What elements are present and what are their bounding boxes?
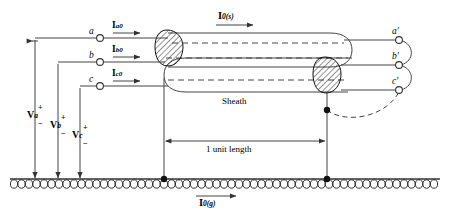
terminal-nodes xyxy=(97,35,403,94)
label-voltage-a: Va xyxy=(27,110,38,120)
label-terminal-c: c xyxy=(89,75,93,85)
label-vc-minus: − xyxy=(83,140,88,148)
terminal-b-prime xyxy=(396,62,403,69)
dot-right-ground xyxy=(324,176,330,182)
terminal-a xyxy=(97,35,104,42)
hatched-end-left xyxy=(155,30,183,66)
figure-canvas: a b c a′ b′ c′ Ia0 Ib0 Ic0 I0(s) I0(g) +… xyxy=(0,0,449,220)
terminal-c-prime xyxy=(396,87,403,94)
label-current-ground: I0(g) xyxy=(199,198,216,209)
ground-line xyxy=(10,179,440,188)
hatched-end-right xyxy=(313,57,341,93)
label-voltage-b: Vb xyxy=(50,120,61,130)
label-terminal-b: b xyxy=(89,51,94,61)
label-sheath: Sheath xyxy=(222,97,247,106)
label-current-b0: Ib0 xyxy=(112,45,123,55)
label-voltage-c: Vc xyxy=(72,130,83,140)
label-va-plus: + xyxy=(38,104,43,112)
label-terminal-a: a xyxy=(89,27,94,37)
terminal-c xyxy=(97,83,104,90)
label-vb-plus: + xyxy=(61,114,66,122)
label-va-minus: − xyxy=(38,120,43,128)
terminal-a-prime xyxy=(396,37,403,44)
label-unit-length: 1 unit length xyxy=(206,145,252,154)
label-current-sheath: I0(s) xyxy=(218,11,234,22)
label-terminal-c-prime: c′ xyxy=(392,77,398,87)
label-current-a0: Ia0 xyxy=(112,21,123,31)
dot-sheath-return xyxy=(324,107,330,113)
dot-left-ground xyxy=(161,176,167,182)
cable-zero-sequence-diagram xyxy=(0,0,449,220)
label-terminal-a-prime: a′ xyxy=(392,27,399,37)
label-vc-plus: + xyxy=(83,124,88,132)
label-vb-minus: − xyxy=(61,130,66,138)
label-terminal-b-prime: b′ xyxy=(392,52,399,62)
label-current-c0: Ic0 xyxy=(112,69,122,79)
sheath-return-dashed xyxy=(327,92,399,117)
right-phase-leads xyxy=(341,40,398,90)
terminal-b xyxy=(97,59,104,66)
